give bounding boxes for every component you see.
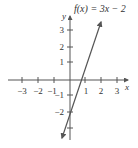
x-tick-label: −2 bbox=[33, 86, 43, 96]
y-tick-label: 1 bbox=[60, 57, 65, 67]
x-tick-label: 2 bbox=[99, 86, 104, 96]
x-tick-label: −3 bbox=[17, 86, 27, 96]
y-tick-label: 2 bbox=[60, 42, 65, 52]
x-axis-label: x bbox=[124, 82, 129, 92]
function-graph: −3 −2 −1 1 2 3 3 2 1 −1 −2 x y f(x) = 3x… bbox=[0, 0, 138, 148]
y-tick-label: −2 bbox=[54, 107, 64, 117]
x-tick-label: 3 bbox=[115, 86, 120, 96]
function-label: f(x) = 3x − 2 bbox=[74, 3, 126, 15]
y-tick-label: −1 bbox=[54, 90, 64, 100]
x-tick-label: 1 bbox=[84, 86, 89, 96]
y-tick-label: 3 bbox=[60, 25, 65, 35]
y-axis-label: y bbox=[61, 11, 66, 21]
